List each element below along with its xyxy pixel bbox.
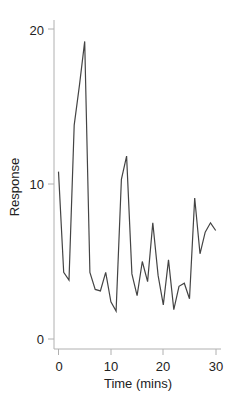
response-series-line [59, 41, 216, 311]
y-tick-label-0: 0 [37, 332, 44, 347]
y-tick-label-20: 20 [30, 23, 44, 38]
y-tick-label-10: 10 [30, 177, 44, 192]
x-tick-label-20: 20 [156, 359, 170, 374]
x-tick-label-0: 0 [55, 359, 62, 374]
x-axis: 0 10 20 30 Time (mins) [54, 349, 223, 391]
line-chart: 0 10 20 Response 0 10 20 30 Time (mins) [0, 0, 234, 407]
x-tick-label-30: 30 [209, 359, 223, 374]
y-axis-title: Response [7, 158, 22, 217]
x-axis-title: Time (mins) [104, 376, 172, 391]
y-axis: 0 10 20 Response [7, 20, 54, 349]
x-tick-label-10: 10 [104, 359, 118, 374]
